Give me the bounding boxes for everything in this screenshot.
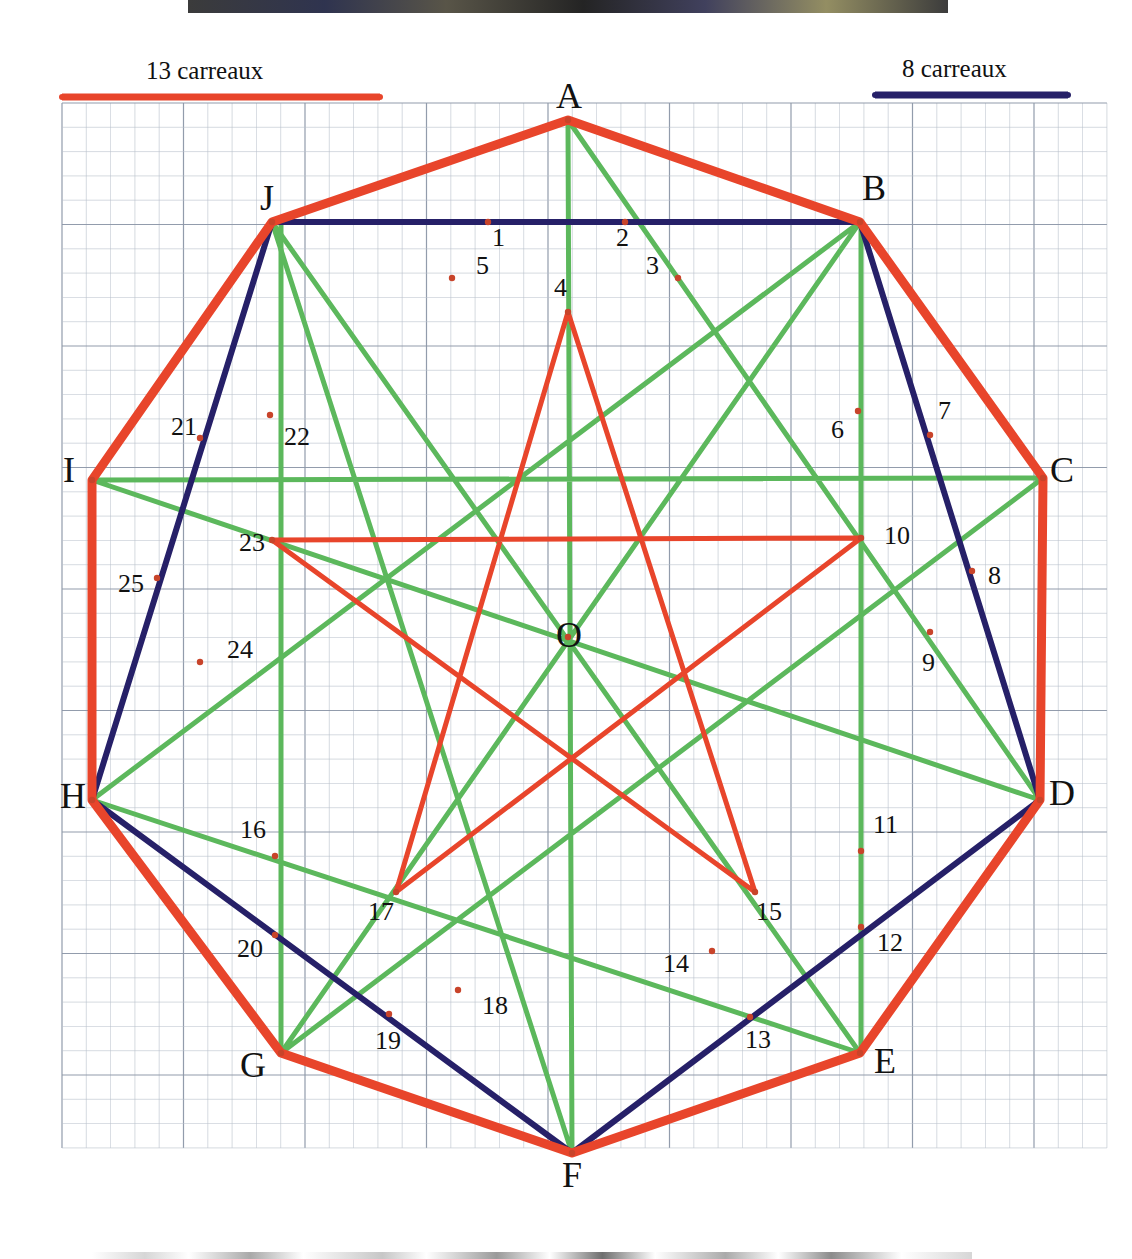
intersection-dot-12 <box>858 924 864 930</box>
red-scale-endpoint <box>377 94 383 100</box>
intersection-dot-5 <box>449 275 455 281</box>
point-label-13: 13 <box>745 1027 771 1053</box>
intersection-dot-10 <box>858 535 864 541</box>
vertex-label-D: D <box>1049 775 1075 811</box>
point-label-9: 9 <box>922 650 935 676</box>
point-label-5: 5 <box>476 253 489 279</box>
vertex-dot-C <box>1040 475 1046 481</box>
point-label-4: 4 <box>554 275 567 301</box>
intersection-dot-13 <box>747 1014 753 1020</box>
intersection-dot-15 <box>752 889 758 895</box>
vertex-dot-A <box>565 117 571 123</box>
vertex-dot-D <box>1037 797 1043 803</box>
point-label-12: 12 <box>877 930 903 956</box>
point-label-2: 2 <box>616 225 629 251</box>
point-label-7: 7 <box>938 398 951 424</box>
vertex-dot-B <box>857 219 863 225</box>
point-label-21: 21 <box>171 414 197 440</box>
intersection-dot-11 <box>858 848 864 854</box>
intersection-dot-7 <box>927 432 933 438</box>
bottom-cropped-text <box>92 1252 972 1259</box>
intersection-dot-23 <box>269 537 275 543</box>
intersection-dot-20 <box>272 932 278 938</box>
intersection-dot-9 <box>927 629 933 635</box>
center-label-O: O <box>556 617 582 653</box>
point-label-14: 14 <box>663 951 689 977</box>
intersection-dot-24 <box>197 659 203 665</box>
vertex-label-G: G <box>240 1047 266 1083</box>
red-scale-endpoint <box>59 94 65 100</box>
graph-paper-grid <box>62 103 1107 1148</box>
navy-scale-caption: 8 carreaux <box>902 55 1007 83</box>
vertex-dot-E <box>857 1050 863 1056</box>
intersection-dot-1 <box>485 219 491 225</box>
intersection-dot-4 <box>565 309 571 315</box>
point-label-15: 15 <box>756 899 782 925</box>
point-label-18: 18 <box>482 993 508 1019</box>
point-label-17: 17 <box>368 899 394 925</box>
intersection-dot-22 <box>267 412 273 418</box>
vertex-dot-J <box>269 219 275 225</box>
point-label-19: 19 <box>375 1028 401 1054</box>
intersection-dot-25 <box>154 575 160 581</box>
vertex-label-A: A <box>556 78 582 114</box>
intersection-dot-14 <box>709 948 715 954</box>
point-label-22: 22 <box>284 424 310 450</box>
point-label-25: 25 <box>118 571 144 597</box>
intersection-dot-3 <box>675 275 681 281</box>
intersection-dot-19 <box>386 1011 392 1017</box>
point-label-1: 1 <box>492 225 505 251</box>
intersection-dot-16 <box>272 853 278 859</box>
vertex-label-E: E <box>874 1043 896 1079</box>
point-label-16: 16 <box>240 817 266 843</box>
point-label-24: 24 <box>227 637 253 663</box>
vertex-dot-H <box>89 797 95 803</box>
vertex-label-F: F <box>562 1157 582 1193</box>
point-label-11: 11 <box>873 812 898 838</box>
grid-background <box>62 103 1107 1148</box>
point-label-3: 3 <box>646 253 659 279</box>
red-scale-caption: 13 carreaux <box>146 57 263 85</box>
point-label-23: 23 <box>239 530 265 556</box>
point-label-10: 10 <box>884 523 910 549</box>
intersection-dot-8 <box>969 568 975 574</box>
intersection-dot-18 <box>455 987 461 993</box>
vertex-dot-G <box>278 1050 284 1056</box>
navy-scale-endpoint <box>872 92 878 98</box>
point-label-8: 8 <box>988 563 1001 589</box>
navy-scale-endpoint <box>1065 92 1071 98</box>
figure-canvas: ABCDEFGHIJO12345678910111213141516171819… <box>0 0 1132 1259</box>
vertex-label-H: H <box>60 778 86 814</box>
point-label-6: 6 <box>831 417 844 443</box>
intersection-dot-6 <box>855 408 861 414</box>
vertex-label-I: I <box>63 452 75 488</box>
intersection-dot-21 <box>197 435 203 441</box>
vertex-label-J: J <box>260 180 274 216</box>
vertex-label-B: B <box>862 170 886 206</box>
intersection-dot-17 <box>393 889 399 895</box>
vertex-dot-I <box>89 477 95 483</box>
point-label-20: 20 <box>237 936 263 962</box>
vertex-label-C: C <box>1050 452 1074 488</box>
